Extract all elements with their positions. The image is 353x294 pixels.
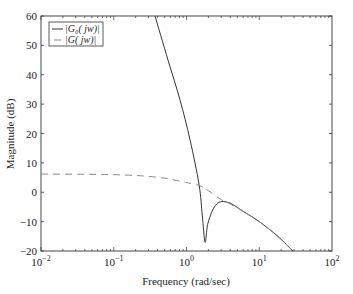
y-tick-label: 60 xyxy=(26,10,38,22)
x-tick-labels: 10−210−1100101102 xyxy=(31,254,339,268)
y-tick-labels: −20−100102030405060 xyxy=(20,10,38,257)
data-series xyxy=(41,16,293,251)
y-tick-label: −10 xyxy=(20,216,38,228)
y-tick-label: 30 xyxy=(26,98,38,110)
y-tick-label: 10 xyxy=(26,157,38,169)
x-tick-label: 10−1 xyxy=(104,254,124,268)
x-tick-label: 100 xyxy=(179,254,194,268)
legend: |G₀( jw)| |G( jw)| xyxy=(49,22,103,46)
legend-label-g: |G( jw)| xyxy=(65,34,96,46)
x-tick-label: 10−2 xyxy=(31,254,51,268)
x-axis-title: Frequency (rad/sec) xyxy=(142,275,230,288)
y-tick-label: 20 xyxy=(26,128,38,140)
y-axis-title: Magnitude (dB) xyxy=(4,98,17,169)
x-tick-label: 102 xyxy=(325,254,340,268)
y-tick-label: 50 xyxy=(26,39,38,51)
x-tick-label: 101 xyxy=(252,254,267,268)
bode-magnitude-chart: −20−100102030405060 10−210−1100101102 Fr… xyxy=(0,0,353,294)
y-tick-label: 40 xyxy=(26,69,38,81)
axis-ticks xyxy=(41,16,332,251)
series-g0-solid-line xyxy=(155,16,293,251)
plot-area xyxy=(41,16,332,251)
plot-frame xyxy=(41,16,332,251)
series-g-dashed-line xyxy=(41,174,293,251)
y-tick-label: 0 xyxy=(32,186,38,198)
